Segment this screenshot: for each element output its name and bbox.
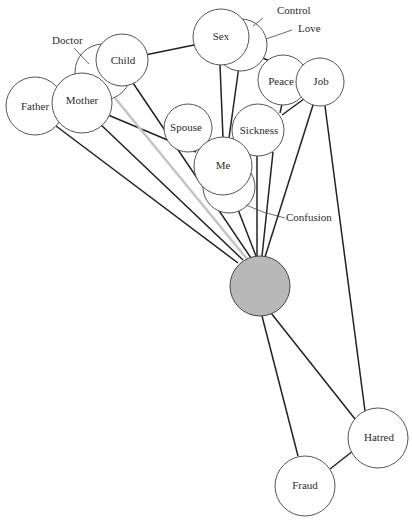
node-label: Spouse xyxy=(170,121,202,133)
node-label: Child xyxy=(111,54,136,66)
node-sex: Sex xyxy=(193,9,249,65)
concept-network-diagram: Father Child Mother Sex Peace Job Spouse xyxy=(0,0,412,521)
node-label: Father xyxy=(21,100,49,112)
node-label: Mother xyxy=(66,94,99,106)
edge-job-hatred xyxy=(325,106,365,411)
label-doctor: Doctor xyxy=(52,34,83,46)
edge-child-sex xyxy=(145,45,194,55)
label-confusion: Confusion xyxy=(286,211,332,223)
edge-sickness-center-2 xyxy=(262,152,273,256)
edge-center-hatred xyxy=(271,313,355,419)
label-love: Love xyxy=(298,22,321,34)
node-label: Hatred xyxy=(364,431,394,443)
node-fraud: Fraud xyxy=(275,456,335,516)
node-label: Sex xyxy=(213,30,230,42)
node-child: Child xyxy=(96,34,148,86)
node-label: Sickness xyxy=(240,124,279,136)
node-label: Me xyxy=(216,159,231,171)
nodes: Father Child Mother Sex Peace Job Spouse xyxy=(6,9,408,516)
node-mother: Mother xyxy=(52,73,112,133)
node-hatred: Hatred xyxy=(348,408,408,468)
node-job: Job xyxy=(296,58,344,106)
edge-center-fraud xyxy=(262,316,298,456)
label-control: Control xyxy=(277,4,311,16)
node-me: Me xyxy=(194,137,252,195)
node-label: Job xyxy=(313,75,329,87)
leader-love xyxy=(266,30,292,39)
node-label: Peace xyxy=(268,75,294,87)
edge-sex-me-1 xyxy=(220,65,223,138)
node-label: Fraud xyxy=(292,479,318,491)
node-center xyxy=(230,256,290,316)
